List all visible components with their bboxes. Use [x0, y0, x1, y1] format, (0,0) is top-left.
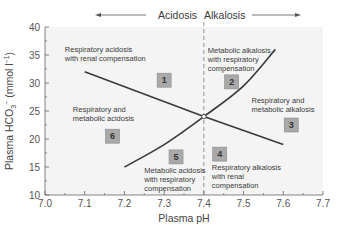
x-tick-label: 7.5 — [237, 198, 251, 209]
region-label-line: Respiratory and — [73, 105, 126, 114]
region-label-line: Metabolic acidosis — [144, 166, 206, 175]
x-tick-label: 7.2 — [117, 198, 131, 209]
y-axis-title-main: Plasma HCO — [3, 109, 15, 170]
x-tick-label: 7.4 — [197, 198, 211, 209]
region-label-line: metabolic acidosis — [73, 114, 135, 123]
x-tick-label: 7.6 — [276, 198, 290, 209]
x-tick-label: 7.0 — [38, 198, 52, 209]
chart-header: Acidosis Alkalosis — [95, 9, 301, 21]
region-label-line: compensation — [212, 181, 259, 190]
region-number: 2 — [229, 77, 234, 87]
x-tick-label: 7.1 — [78, 198, 92, 209]
region-label-line: compensation — [208, 64, 255, 73]
y-tick-label: 40 — [29, 22, 41, 33]
region-number: 5 — [174, 152, 179, 162]
normal-point-marker — [202, 114, 206, 118]
y-axis-title-sub: 3 — [10, 105, 17, 109]
region-number: 1 — [162, 75, 167, 85]
region-number: 3 — [289, 120, 294, 130]
y-axis-title-unit: (mmol l — [3, 63, 15, 100]
x-tick-label: 7.7 — [316, 198, 330, 209]
y-tick-label: 15 — [29, 162, 41, 173]
region-label-line: compensation — [144, 184, 191, 193]
region-label-line: Respiratory and — [252, 96, 305, 105]
alkalosis-label: Alkalosis — [204, 9, 245, 21]
acidosis-arrowhead-icon — [95, 13, 101, 17]
y-tick-label: 25 — [29, 106, 41, 117]
region-number: 6 — [110, 131, 115, 141]
y-tick-label: 30 — [29, 78, 41, 89]
region-label-line: with renal compensation — [64, 54, 146, 63]
region-label-line: with respiratory — [207, 55, 259, 64]
y-axis-title: Plasma HCO3− (mmol l−1) — [3, 52, 17, 170]
region-label-line: Respiratory alkalosis — [212, 163, 281, 172]
y-tick-label: 20 — [29, 134, 41, 145]
y-tick-label: 10 — [29, 190, 41, 201]
region-label-line: Metabolic alkalosis — [208, 46, 271, 55]
x-axis-title: Plasma pH — [158, 212, 209, 224]
acid-base-chart: Acidosis Alkalosis 7.07.17.27.37.47.57.6… — [0, 0, 337, 229]
region-label-line: metabolic alkalosis — [252, 105, 315, 114]
y-axis-title-unit-sup: −1 — [3, 55, 10, 63]
region-label-line: with renal — [211, 172, 244, 181]
y-tick-label: 35 — [29, 50, 41, 61]
region-label-line: with respiratory — [143, 175, 195, 184]
y-axis-title-close: ) — [3, 52, 15, 56]
alkalosis-arrowhead-icon — [295, 13, 301, 17]
region-number: 4 — [217, 149, 222, 159]
region-label-line: Respiratory acidosis — [65, 45, 133, 54]
x-tick-label: 7.3 — [157, 198, 171, 209]
acidosis-label: Acidosis — [158, 9, 197, 21]
